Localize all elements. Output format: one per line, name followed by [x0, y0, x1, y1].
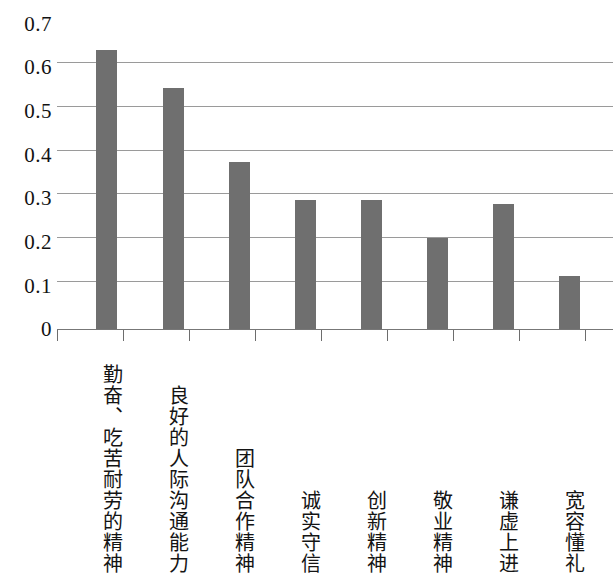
- bar: [163, 88, 184, 329]
- x-axis-category-label: 宽容懂礼: [554, 336, 584, 574]
- bar: [229, 162, 250, 329]
- x-axis-category-label: 诚实守信: [290, 336, 320, 574]
- bar: [427, 238, 448, 329]
- y-axis-tick-label: 0.4: [4, 145, 52, 166]
- y-axis-tick-label: 0.3: [4, 188, 52, 209]
- gridline: [57, 193, 613, 194]
- x-axis-category-label: 团队合作精神: [224, 336, 254, 574]
- plot-area: [57, 24, 613, 330]
- y-axis-tick-label: 0.7: [4, 14, 52, 35]
- bar: [493, 204, 514, 329]
- bar: [96, 50, 117, 329]
- gridline: [57, 237, 613, 238]
- x-axis-category-label: 勤奋、吃苦耐劳的精神: [92, 336, 122, 574]
- x-axis-line: [57, 329, 613, 330]
- y-axis-tick-label: 0.2: [4, 232, 52, 253]
- x-axis-category-labels: 勤奋、吃苦耐劳的精神 良好的人际沟通能力 团队合作精神 诚实守信 创新精神 敬业…: [0, 336, 615, 577]
- gridline: [57, 281, 613, 282]
- x-axis-category-label: 谦虚上进: [488, 336, 518, 574]
- bar: [295, 200, 316, 329]
- y-axis-tick-label: 0.1: [4, 276, 52, 297]
- x-axis-category-label: 敬业精神: [422, 336, 452, 574]
- gridline: [57, 150, 613, 151]
- x-axis-category-label: 良好的人际沟通能力: [158, 336, 188, 574]
- y-axis-tick-label: 0.5: [4, 101, 52, 122]
- bar-chart: 0.7 0.6 0.5 0.4 0.3 0.2 0.1 0: [0, 0, 615, 577]
- gridline: [57, 62, 613, 63]
- x-axis-category-label: 创新精神: [356, 336, 386, 574]
- bar: [559, 276, 580, 329]
- gridline: [57, 106, 613, 107]
- bar: [361, 200, 382, 329]
- y-axis-tick-label: 0.6: [4, 57, 52, 78]
